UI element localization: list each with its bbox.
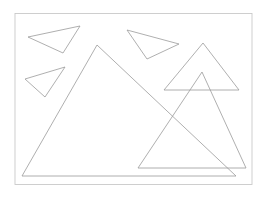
triangle-right-medium	[164, 43, 239, 90]
triangle-top-left-small	[28, 26, 80, 53]
triangle-left-middle-small	[25, 67, 65, 97]
triangle-large-left	[22, 45, 236, 176]
triangle-right-tall	[138, 72, 246, 168]
triangle-composition-svg	[0, 0, 267, 200]
figure-canvas	[0, 0, 267, 200]
triangle-top-middle-small	[127, 30, 179, 59]
